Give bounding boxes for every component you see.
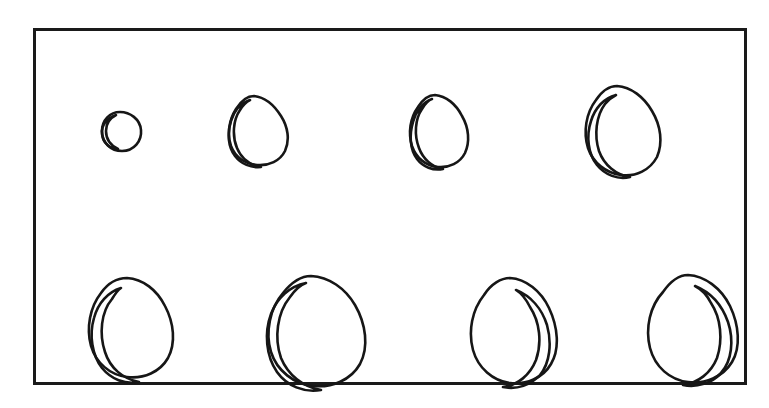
figure-container [0,0,769,408]
specimen-4 [586,86,661,178]
specimen-2-contour-inner [229,100,261,167]
contour-figure-canvas [0,0,769,408]
specimen-8-contour-inner [683,286,731,386]
specimen-3-contour-outer [410,95,468,167]
figure-frame-border [35,30,746,384]
specimen-3 [410,95,468,170]
specimen-6-contour-inner [267,283,321,391]
specimen-6-contour-outer [268,276,365,386]
specimen-1 [102,112,141,151]
specimen-5 [89,278,173,383]
specimen-4-contour-inner [588,95,630,178]
specimen-5-contour-inner [92,288,139,383]
specimen-7-contour-inner [503,290,550,388]
specimen-8 [648,275,738,386]
specimen-6 [267,276,365,391]
specimen-2 [229,96,288,167]
specimen-7 [471,278,557,388]
